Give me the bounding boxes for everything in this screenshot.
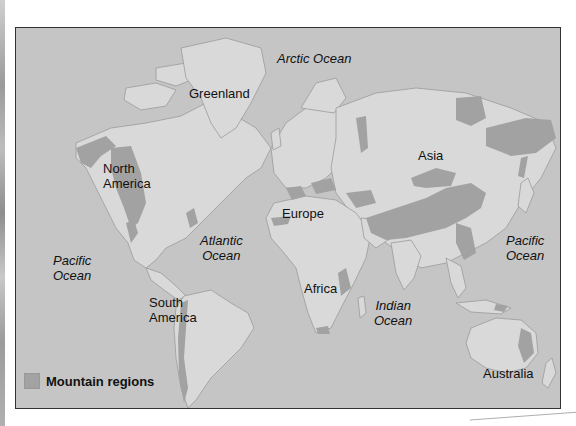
page-curl-lines [0, 0, 576, 426]
